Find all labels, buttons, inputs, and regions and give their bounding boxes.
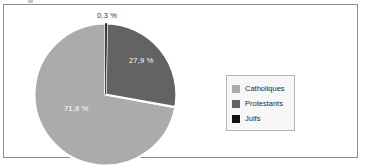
legend-item-catholiques[interactable]: Catholiques — [232, 81, 290, 96]
legend-swatch-juifs — [232, 115, 240, 123]
legend: Catholiques Protestants Juifs — [226, 75, 295, 131]
legend-label-juifs: Juifs — [245, 115, 260, 123]
pie-chart — [34, 23, 177, 166]
legend-label-protestants: Protestants — [245, 100, 283, 108]
figure-frame: 0,3 % 27,9 % 71,8 % Catholiques Protesta… — [3, 4, 358, 158]
pie-label-juifs: 0,3 % — [97, 11, 117, 20]
pie-label-catholiques: 71,8 % — [64, 104, 89, 113]
legend-item-juifs[interactable]: Juifs — [232, 111, 290, 126]
screenshot-root: 0,3 % 27,9 % 71,8 % Catholiques Protesta… — [0, 0, 368, 168]
legend-swatch-catholiques — [232, 85, 240, 93]
pie-label-protestants: 27,9 % — [129, 56, 154, 65]
pie-slice-protestants[interactable] — [106, 24, 177, 108]
legend-label-catholiques: Catholiques — [245, 85, 285, 93]
legend-swatch-protestants — [232, 100, 240, 108]
scan-artifact-tick — [28, 0, 33, 3]
legend-item-protestants[interactable]: Protestants — [232, 96, 290, 111]
pie-chart-svg — [34, 23, 177, 166]
